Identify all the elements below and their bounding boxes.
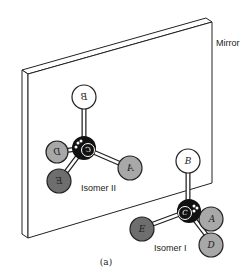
- isomer-2-atom-e-label: E: [55, 176, 63, 186]
- isomer-1-label: Isomer I: [154, 243, 187, 253]
- isomer-1-carbon-atom: [177, 199, 201, 223]
- isomer-2-carbon-label: C: [85, 146, 91, 154]
- isomer-1-carbon-label: C: [182, 209, 188, 217]
- mirror-label: Mirror: [216, 38, 240, 48]
- isomer-2-atom-b-label: B: [80, 92, 88, 102]
- isomer-1-atom-a-label: A: [208, 214, 216, 224]
- isomer-2-atom-a-label: A: [126, 163, 134, 173]
- isomer-2-label: Isomer II: [81, 183, 116, 193]
- isomer-1-atom-d-label: D: [206, 240, 214, 250]
- isomer-1-atom-b-label: B: [184, 156, 192, 166]
- isomer-2-atom-d-label: D: [53, 147, 61, 157]
- isomer-1-atom-e-label: E: [138, 224, 146, 234]
- mirror-image-isomers-diagram: Mirror B D A E C Isomer II: [0, 0, 247, 274]
- figure-caption: (a): [100, 257, 112, 267]
